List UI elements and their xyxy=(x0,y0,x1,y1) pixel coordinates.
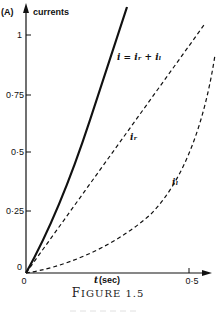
label-inductive-current: iₗ xyxy=(172,177,178,187)
faint-footer-text xyxy=(70,308,140,314)
y-tick-label-075: 0·75 xyxy=(6,90,24,100)
label-total-current: i = iᵣ + iₗ xyxy=(117,52,162,62)
label-resistive-current: iᵣ xyxy=(130,132,137,142)
chart-canvas: 1 0·75 0·5 0·25 0 0 0·5 (A) currents t (… xyxy=(0,0,216,322)
x-axis-unit: (sec) xyxy=(99,275,120,285)
y-ticks xyxy=(26,35,31,211)
y-tick-label-1: 1 xyxy=(17,30,22,40)
x-axis-arrow-icon xyxy=(202,270,212,276)
x-tick-label-05: 0·5 xyxy=(185,276,198,286)
x-tick-label-0: 0 xyxy=(21,276,26,286)
curve-resistive-current xyxy=(26,25,204,273)
figure-caption: FIGURE 1.5 xyxy=(0,286,216,300)
curve-inductive-current xyxy=(26,55,215,273)
y-axis-arrow-icon xyxy=(23,3,29,13)
y-tick-label-05: 0·5 xyxy=(11,147,24,157)
y-axis-unit: (A) xyxy=(1,7,14,17)
y-tick-label-025: 0·25 xyxy=(6,206,24,216)
curve-total-current xyxy=(26,7,127,273)
y-axis-title: currents xyxy=(33,7,69,17)
y-tick-label-0: 0 xyxy=(17,262,22,272)
